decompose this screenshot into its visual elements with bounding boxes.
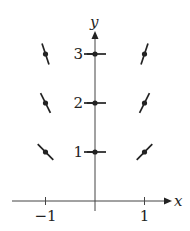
y-tick-label: 3 <box>73 45 83 63</box>
slope-point <box>43 149 48 154</box>
y-tick-label: 1 <box>73 143 83 161</box>
slope-point <box>142 51 147 56</box>
y-axis-arrow <box>92 31 99 39</box>
slope-point <box>43 100 48 105</box>
y-tick-label: 2 <box>73 94 83 112</box>
x-axis-arrow <box>164 198 172 205</box>
x-tick-label: 1 <box>140 207 150 225</box>
slope-point <box>142 100 147 105</box>
slope-point <box>92 51 97 56</box>
x-tick-label: −1 <box>34 207 56 225</box>
slope-point <box>92 149 97 154</box>
slope-point <box>43 51 48 56</box>
slope-field-diagram: x y −11123 <box>0 0 190 231</box>
y-axis-label: y <box>89 13 99 31</box>
x-axis-label: x <box>174 192 183 210</box>
slope-point <box>142 149 147 154</box>
slope-point <box>92 100 97 105</box>
